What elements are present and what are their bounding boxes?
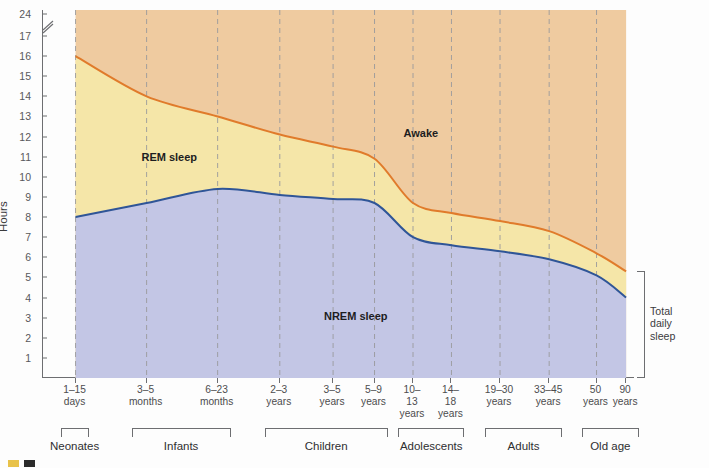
y-tick-mark-24 xyxy=(42,14,47,15)
y-tick-label-8: 8 xyxy=(0,211,38,223)
x-tick-line-1: years xyxy=(361,396,386,408)
y-axis-break-icon xyxy=(42,18,54,34)
x-tick-mark-2 xyxy=(217,378,218,383)
chart-svg xyxy=(43,10,635,378)
y-tick-mark-11 xyxy=(42,156,47,157)
y-tick-mark-2 xyxy=(42,337,47,338)
x-tick-line-2: years xyxy=(400,408,425,420)
age-group-bracket-4 xyxy=(485,428,562,437)
bracket-line-3: sleep xyxy=(650,330,675,343)
y-tick-mark-4 xyxy=(42,297,47,298)
legend-swatch-1 xyxy=(24,460,35,467)
y-tick-label-2: 2 xyxy=(0,332,38,344)
region-label-nrem-sleep: NREM sleep xyxy=(324,310,388,322)
x-tick-mark-7 xyxy=(450,378,451,383)
y-tick-mark-7 xyxy=(42,237,47,238)
x-tick-line-1: 18 xyxy=(438,396,463,408)
y-tick-label-10: 10 xyxy=(0,171,38,183)
total-daily-sleep-label: Total daily sleep xyxy=(650,305,675,343)
x-tick-mark-8 xyxy=(499,378,500,383)
x-tick-line-0: 2–3 xyxy=(266,384,291,396)
y-tick-label-4: 4 xyxy=(0,292,38,304)
y-tick-mark-14 xyxy=(42,96,47,97)
x-tick-label-4: 3–5years xyxy=(320,384,345,408)
y-tick-label-6: 6 xyxy=(0,251,38,263)
y-tick-mark-15 xyxy=(42,76,47,77)
x-tick-line-1: months xyxy=(129,396,162,408)
bracket-line-1: Total xyxy=(650,305,675,318)
age-group-bracket-2 xyxy=(265,428,388,437)
x-tick-line-0: 90 xyxy=(613,384,638,396)
x-tick-mark-3 xyxy=(279,378,280,383)
x-tick-mark-5 xyxy=(374,378,375,383)
x-tick-line-0: 50 xyxy=(583,384,608,396)
plot-area xyxy=(42,10,634,378)
x-tick-line-1: days xyxy=(63,396,86,408)
x-tick-label-7: 14–18years xyxy=(438,384,463,419)
age-group-label-0: Neonates xyxy=(50,440,99,452)
y-tick-mark-1 xyxy=(42,357,47,358)
y-tick-label-1: 1 xyxy=(0,352,38,364)
x-tick-mark-11 xyxy=(625,378,626,383)
y-tick-mark-17 xyxy=(42,36,47,37)
y-tick-label-14: 14 xyxy=(0,90,38,102)
x-tick-line-1: years xyxy=(266,396,291,408)
x-tick-line-0: 6–23 xyxy=(200,384,233,396)
age-group-label-5: Old age xyxy=(590,440,630,452)
sleep-chart-figure: Hours 123456789101112131415161724 1–15da… xyxy=(0,0,709,468)
age-group-label-4: Adults xyxy=(508,440,540,452)
y-tick-mark-10 xyxy=(42,176,47,177)
y-tick-label-7: 7 xyxy=(0,231,38,243)
y-tick-label-9: 9 xyxy=(0,191,38,203)
stacked-areas xyxy=(76,10,627,378)
x-tick-line-0: 3–5 xyxy=(129,384,162,396)
x-tick-line-1: years xyxy=(613,396,638,408)
x-tick-line-0: 33–45 xyxy=(534,384,562,396)
y-tick-label-24: 24 xyxy=(0,8,38,20)
y-tick-label-11: 11 xyxy=(0,151,38,163)
y-tick-mark-5 xyxy=(42,277,47,278)
age-group-bracket-1 xyxy=(132,428,231,437)
x-tick-label-10: 50years xyxy=(583,384,608,408)
x-tick-line-0: 19–30 xyxy=(485,384,513,396)
x-tick-label-3: 2–3years xyxy=(266,384,291,408)
x-tick-line-0: 3–5 xyxy=(320,384,345,396)
figure-legend xyxy=(8,460,35,467)
x-tick-line-2: years xyxy=(438,408,463,420)
age-group-label-3: Adolescents xyxy=(400,440,463,452)
x-tick-line-0: 14– xyxy=(438,384,463,396)
x-tick-mark-1 xyxy=(146,378,147,383)
x-tick-line-1: months xyxy=(200,396,233,408)
x-tick-mark-4 xyxy=(332,378,333,383)
x-tick-label-11: 90years xyxy=(613,384,638,408)
y-tick-label-13: 13 xyxy=(0,110,38,122)
y-tick-mark-9 xyxy=(42,196,47,197)
y-tick-mark-6 xyxy=(42,257,47,258)
y-tick-mark-12 xyxy=(42,136,47,137)
x-tick-line-0: 10– xyxy=(400,384,425,396)
y-tick-label-3: 3 xyxy=(0,312,38,324)
y-tick-mark-3 xyxy=(42,317,47,318)
y-tick-mark-13 xyxy=(42,116,47,117)
x-tick-mark-0 xyxy=(75,378,76,383)
x-tick-mark-6 xyxy=(412,378,413,383)
x-tick-line-0: 5–9 xyxy=(361,384,386,396)
total-daily-sleep-bracket xyxy=(637,271,645,378)
age-group-bracket-0 xyxy=(61,428,89,437)
x-tick-line-1: years xyxy=(534,396,562,408)
y-tick-label-15: 15 xyxy=(0,70,38,82)
legend-swatch-0 xyxy=(8,460,19,467)
age-group-bracket-3 xyxy=(398,428,464,437)
x-tick-line-1: years xyxy=(320,396,345,408)
x-tick-line-0: 1–15 xyxy=(63,384,86,396)
y-tick-mark-8 xyxy=(42,217,47,218)
x-tick-label-9: 33–45years xyxy=(534,384,562,408)
y-tick-label-16: 16 xyxy=(0,50,38,62)
region-label-awake: Awake xyxy=(404,127,439,139)
x-tick-line-1: years xyxy=(485,396,513,408)
x-tick-line-1: years xyxy=(583,396,608,408)
region-label-rem-sleep: REM sleep xyxy=(141,151,197,163)
x-tick-label-2: 6–23months xyxy=(200,384,233,408)
y-tick-label-17: 17 xyxy=(0,30,38,42)
x-tick-label-1: 3–5months xyxy=(129,384,162,408)
